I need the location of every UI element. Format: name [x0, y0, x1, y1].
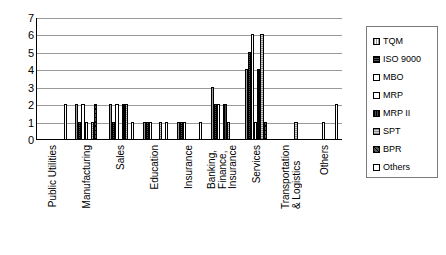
- x-tick-label: Banking, Finance, Insurance: [207, 145, 239, 189]
- bar-cluster: [139, 18, 173, 139]
- x-label-slot: Services: [240, 145, 274, 251]
- x-tick-label: Insurance: [184, 145, 195, 189]
- y-tick-label-5: 5: [28, 47, 34, 58]
- bar: [165, 122, 168, 139]
- legend-swatch-icon: [373, 38, 380, 45]
- bar: [322, 122, 325, 139]
- bar: [217, 104, 220, 139]
- legend-swatch-icon: [373, 56, 380, 63]
- bar-cluster: [105, 18, 139, 139]
- x-tick-label: Others: [320, 145, 331, 175]
- legend-item[interactable]: ISO 9000: [373, 50, 437, 68]
- legend-item[interactable]: MBO: [373, 68, 437, 86]
- bar: [94, 104, 97, 139]
- legend-label: Others: [383, 163, 410, 172]
- bar: [115, 104, 118, 139]
- bar-chart: 01234567 Public UtilitiesManufacturingSa…: [0, 0, 446, 255]
- y-tick-label-6: 6: [28, 30, 34, 41]
- x-label-slot: Public Utilities: [36, 145, 70, 251]
- legend-swatch-icon: [373, 146, 380, 153]
- bar-cluster: [37, 18, 71, 139]
- x-label-slot: Education: [138, 145, 172, 251]
- legend-label: BPR: [383, 145, 402, 154]
- y-tick-label-1: 1: [28, 117, 34, 128]
- y-tick-label-3: 3: [28, 82, 34, 93]
- bar: [149, 122, 152, 139]
- x-label-slot: Manufacturing: [70, 145, 104, 251]
- y-tick-label-4: 4: [28, 65, 34, 76]
- legend-swatch-icon: [373, 128, 380, 135]
- legend-label: MRP: [383, 91, 403, 100]
- x-axis: Public UtilitiesManufacturingSalesEducat…: [36, 145, 342, 251]
- legend: TQMISO 9000MBOMRPMRP IISPTBPROthers: [366, 26, 438, 178]
- legend-swatch-icon: [373, 74, 380, 81]
- bar: [335, 104, 338, 139]
- legend-label: ISO 9000: [383, 55, 421, 64]
- bars-layer: [37, 18, 342, 139]
- legend-item[interactable]: Others: [373, 158, 437, 176]
- legend-item[interactable]: SPT: [373, 122, 437, 140]
- bar-cluster: [206, 18, 240, 139]
- bar: [227, 122, 230, 139]
- x-tick-label: Education: [150, 145, 161, 189]
- bar-cluster: [173, 18, 207, 139]
- legend-swatch-icon: [373, 110, 380, 117]
- legend-item[interactable]: BPR: [373, 140, 437, 158]
- x-label-slot: Others: [308, 145, 342, 251]
- legend-label: MRP II: [383, 109, 410, 118]
- x-label-slot: Sales: [104, 145, 138, 251]
- x-label-slot: Transportation & Logistics: [274, 145, 308, 251]
- bar-cluster: [240, 18, 274, 139]
- legend-label: TQM: [383, 37, 403, 46]
- y-axis: 01234567: [18, 18, 34, 140]
- legend-item[interactable]: MRP II: [373, 104, 437, 122]
- bar: [125, 104, 128, 139]
- x-tick-label: Services: [252, 145, 263, 183]
- x-tick-label: Transportation & Logistics: [281, 145, 302, 209]
- y-tick-label-0: 0: [28, 135, 34, 146]
- bar-cluster: [308, 18, 342, 139]
- y-tick-label-2: 2: [28, 100, 34, 111]
- bar-cluster: [274, 18, 308, 139]
- legend-item[interactable]: TQM: [373, 32, 437, 50]
- plot-area: [36, 18, 342, 140]
- y-tick-label-7: 7: [28, 13, 34, 24]
- bar: [264, 122, 267, 139]
- x-tick-label: Public Utilities: [48, 145, 59, 207]
- legend-label: MBO: [383, 73, 404, 82]
- bar: [183, 122, 186, 139]
- bar: [159, 122, 162, 139]
- bar: [294, 122, 297, 139]
- legend-swatch-icon: [373, 92, 380, 99]
- x-label-slot: Insurance: [172, 145, 206, 251]
- bar: [85, 122, 88, 139]
- x-label-slot: Banking, Finance, Insurance: [206, 145, 240, 251]
- x-tick-label: Sales: [116, 145, 127, 170]
- bar: [199, 122, 202, 139]
- legend-swatch-icon: [373, 164, 380, 171]
- legend-item[interactable]: MRP: [373, 86, 437, 104]
- legend-label: SPT: [383, 127, 401, 136]
- bar: [131, 122, 134, 139]
- bar: [64, 104, 67, 139]
- x-tick-label: Manufacturing: [82, 145, 93, 208]
- bar-cluster: [71, 18, 105, 139]
